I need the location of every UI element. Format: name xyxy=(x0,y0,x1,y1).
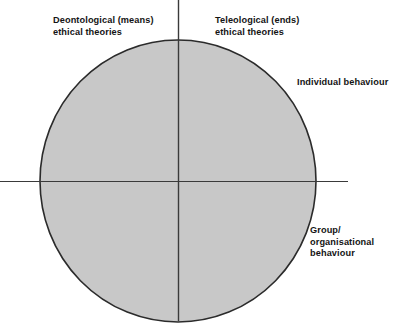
label-group-organisational-behaviour: Group/ organisational behaviour xyxy=(310,225,395,260)
label-deontological-ethical-theories: Deontological (means) ethical theories xyxy=(53,15,183,38)
quadrant-diagram-graphic xyxy=(0,0,395,332)
label-teleological-ethical-theories: Teleological (ends) ethical theories xyxy=(215,15,340,38)
diagram-canvas: Deontological (means) ethical theories T… xyxy=(0,0,395,332)
label-individual-behaviour: Individual behaviour xyxy=(297,77,395,89)
